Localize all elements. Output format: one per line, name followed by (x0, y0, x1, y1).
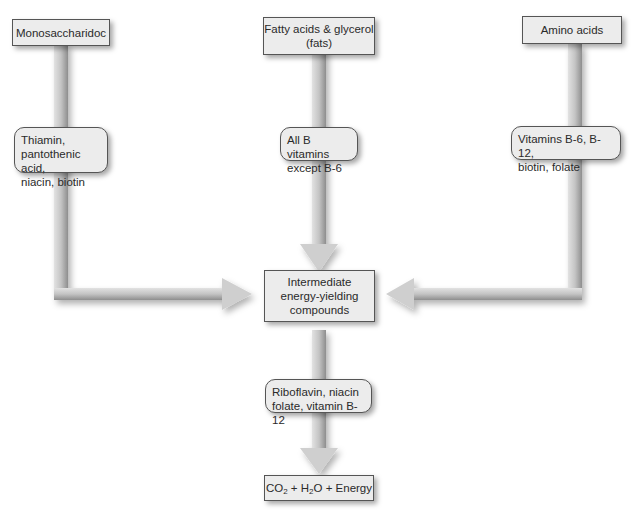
source-amino-acids: Amino acids (522, 16, 622, 44)
source-fats: Fatty acids & glycerol (fats) (263, 17, 375, 55)
cofactor-line: biotin, folate (518, 160, 614, 174)
energy-text: O + Energy (314, 482, 373, 494)
left-arrow-head (222, 278, 252, 310)
co2-text: CO (266, 482, 283, 494)
cofactor-line: Thiamin, (21, 133, 101, 147)
source-fats-line2: (fats) (306, 36, 332, 50)
cofactor-line: pantothenic acid, (21, 147, 101, 175)
cofactor-line: Vitamins B-6, B-12, (518, 132, 614, 160)
cofactor-amino-acids: Vitamins B-6, B-12, biotin, folate (511, 126, 621, 160)
intermediate-line: compounds (290, 303, 349, 317)
source-fats-line1: Fatty acids & glycerol (264, 22, 373, 36)
cofactor-final: Riboflavin, niacin folate, vitamin B-12 (265, 379, 372, 413)
source-amino-label: Amino acids (541, 23, 604, 37)
cofactor-line: All B vitamins (287, 133, 351, 161)
cofactor-fats: All B vitamins except B-6 (280, 127, 358, 161)
center-arrow-head-top (300, 244, 338, 272)
cofactor-monosaccharides: Thiamin, pantothenic acid, niacin, bioti… (14, 127, 108, 173)
intermediate-line: Intermediate (288, 275, 352, 289)
cofactor-line: folate, vitamin B-12 (272, 399, 365, 427)
cofactor-line: niacin, biotin (21, 175, 101, 189)
h2o-text: + H (288, 482, 309, 494)
source-monosaccharides: Monosaccharidoc (12, 19, 110, 46)
left-arrow-shaft-horizontal (54, 288, 224, 300)
right-arrow-head (386, 278, 414, 310)
source-monosaccharides-label: Monosaccharidoc (16, 26, 106, 40)
product-label: CO2 + H2O + Energy (266, 481, 372, 495)
intermediate-line: energy-yielding (281, 289, 359, 303)
intermediate-compounds: Intermediate energy-yielding compounds (264, 270, 375, 322)
center-arrow-head-bottom (300, 448, 338, 474)
product-box: CO2 + H2O + Energy (264, 475, 374, 501)
cofactor-line: Riboflavin, niacin (272, 385, 365, 399)
right-arrow-shaft-horizontal (412, 288, 582, 300)
flow-arrows (0, 0, 632, 516)
cofactor-line: except B-6 (287, 161, 351, 175)
